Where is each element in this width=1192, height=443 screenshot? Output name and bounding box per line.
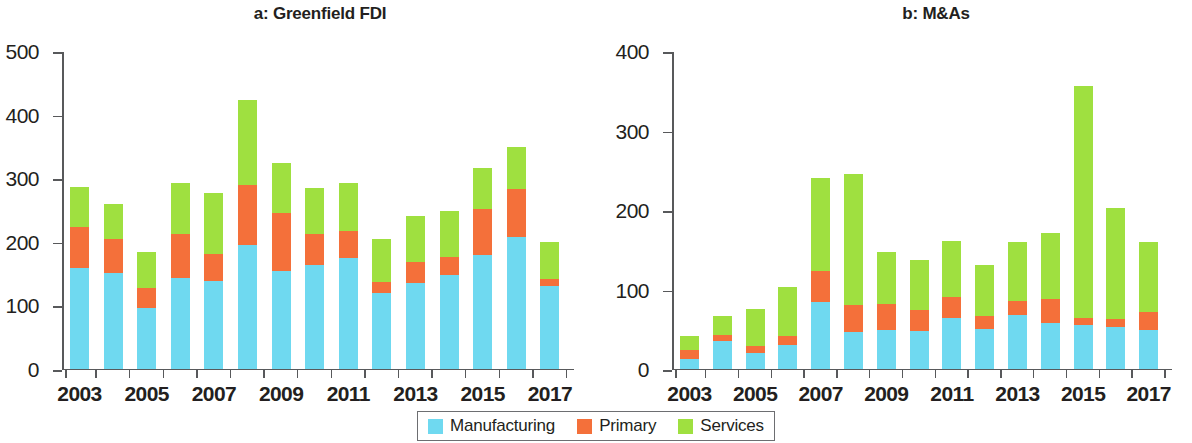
bar-2006 bbox=[171, 183, 190, 368]
bar-segment-manufacturing bbox=[473, 255, 492, 369]
bar-2013 bbox=[406, 216, 425, 369]
bar-segment-primary bbox=[272, 213, 291, 270]
bar-segment-services bbox=[680, 336, 699, 350]
bar-series-group-b bbox=[672, 52, 1172, 370]
bar-segment-primary bbox=[137, 288, 156, 308]
bar-segment-primary bbox=[942, 297, 961, 318]
x-tick-2004 bbox=[738, 370, 740, 378]
bar-2016 bbox=[1106, 208, 1125, 369]
x-tick-label-2009: 2009 bbox=[259, 382, 303, 406]
bar-2014 bbox=[440, 211, 459, 369]
bar-segment-services bbox=[877, 252, 896, 304]
y-tick-label-400: 400 bbox=[5, 104, 39, 128]
bar-segment-primary bbox=[877, 304, 896, 329]
bar-segment-primary bbox=[1074, 318, 1093, 325]
bar-segment-primary bbox=[305, 234, 324, 265]
x-tick-2008 bbox=[263, 370, 265, 378]
legend-swatch-icon-manufacturing bbox=[428, 419, 443, 434]
x-tick-origin bbox=[675, 370, 677, 378]
x-tick-2003 bbox=[95, 370, 97, 378]
bar-2017 bbox=[540, 242, 559, 369]
bar-2009 bbox=[877, 252, 896, 369]
y-tick-200: 200 bbox=[53, 243, 62, 245]
bar-segment-services bbox=[942, 241, 961, 297]
bar-segment-services bbox=[778, 287, 797, 336]
bar-segment-services bbox=[137, 252, 156, 288]
x-tick-2017 bbox=[1164, 370, 1166, 378]
x-tick-2013 bbox=[431, 370, 433, 378]
bar-segment-services bbox=[1074, 86, 1093, 317]
chart-legend: ManufacturingPrimaryServices bbox=[417, 411, 775, 441]
x-tick-2016 bbox=[1131, 370, 1133, 378]
x-tick-2007 bbox=[230, 370, 232, 378]
y-tick-500: 500 bbox=[53, 52, 62, 54]
bar-segment-manufacturing bbox=[238, 245, 257, 368]
x-tick-label-2005: 2005 bbox=[733, 382, 777, 406]
bar-segment-services bbox=[540, 242, 559, 279]
x-tick-2017 bbox=[566, 370, 568, 378]
bar-segment-primary bbox=[778, 336, 797, 346]
bar-2004 bbox=[104, 204, 123, 369]
bar-2011 bbox=[942, 241, 961, 368]
x-tick-label-2009: 2009 bbox=[864, 382, 908, 406]
bar-segment-primary bbox=[171, 234, 190, 279]
x-tick-2010 bbox=[935, 370, 937, 378]
bar-2012 bbox=[372, 239, 391, 368]
bar-segment-manufacturing bbox=[1139, 330, 1158, 369]
bar-segment-manufacturing bbox=[1106, 327, 1125, 368]
bar-segment-primary bbox=[1008, 301, 1027, 315]
bar-segment-primary bbox=[1106, 319, 1125, 327]
bar-segment-manufacturing bbox=[1008, 315, 1027, 368]
x-tick-label-2005: 2005 bbox=[125, 382, 169, 406]
bar-segment-manufacturing bbox=[680, 359, 699, 369]
bar-segment-manufacturing bbox=[507, 237, 526, 368]
x-tick-2010 bbox=[331, 370, 333, 378]
bar-segment-manufacturing bbox=[1041, 323, 1060, 368]
x-tick-2007 bbox=[836, 370, 838, 378]
bar-2017 bbox=[1139, 242, 1158, 368]
x-tick-label-2015: 2015 bbox=[461, 382, 505, 406]
y-tick-label-0: 0 bbox=[638, 358, 649, 382]
y-tick-300: 300 bbox=[663, 132, 672, 134]
x-tick-2012 bbox=[1000, 370, 1002, 378]
bar-2004 bbox=[713, 316, 732, 368]
bar-segment-manufacturing bbox=[70, 268, 89, 368]
bar-segment-primary bbox=[1041, 299, 1060, 323]
x-tick-2003 bbox=[705, 370, 707, 378]
bar-2016 bbox=[507, 147, 526, 368]
bar-segment-manufacturing bbox=[204, 281, 223, 369]
bar-segment-services bbox=[238, 100, 257, 185]
x-tick-label-2003: 2003 bbox=[57, 382, 101, 406]
bar-2008 bbox=[238, 100, 257, 368]
bar-segment-primary bbox=[238, 185, 257, 245]
bar-2008 bbox=[844, 174, 863, 369]
x-tick-2013 bbox=[1033, 370, 1035, 378]
bar-2011 bbox=[339, 183, 358, 368]
y-tick-0: 0 bbox=[663, 370, 672, 372]
x-tick-2014 bbox=[1066, 370, 1068, 378]
figure-stacked-bar-charts: a: Greenfield FDI 0100200300400500 20032… bbox=[0, 0, 1192, 443]
y-tick-300: 300 bbox=[53, 179, 62, 181]
bar-2007 bbox=[204, 193, 223, 369]
bar-2003 bbox=[70, 187, 89, 369]
x-tick-2005 bbox=[163, 370, 165, 378]
plot-area-a: 0100200300400500 20032005200720092011201… bbox=[62, 52, 574, 370]
bar-2009 bbox=[272, 163, 291, 368]
bar-2013 bbox=[1008, 242, 1027, 368]
bar-segment-manufacturing bbox=[713, 341, 732, 369]
bar-segment-manufacturing bbox=[339, 258, 358, 369]
bar-segment-services bbox=[339, 183, 358, 231]
bar-segment-primary bbox=[507, 189, 526, 238]
bar-segment-primary bbox=[540, 279, 559, 287]
legend-swatch-icon-primary bbox=[577, 419, 592, 434]
bar-2014 bbox=[1041, 233, 1060, 369]
y-tick-label-100: 100 bbox=[615, 279, 649, 303]
bar-segment-primary bbox=[104, 239, 123, 273]
y-tick-100: 100 bbox=[663, 291, 672, 293]
bar-segment-services bbox=[70, 187, 89, 228]
y-tick-label-200: 200 bbox=[615, 199, 649, 223]
x-tick-label-2013: 2013 bbox=[393, 382, 437, 406]
bar-segment-services bbox=[746, 309, 765, 346]
bar-segment-primary bbox=[406, 262, 425, 284]
x-tick-2015 bbox=[499, 370, 501, 378]
